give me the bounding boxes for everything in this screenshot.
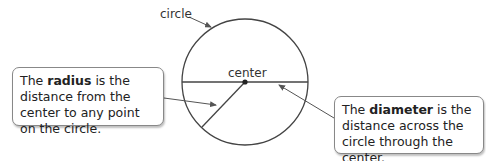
diameter-pointer-arrow — [279, 85, 334, 118]
diameter-callout-pre: The — [342, 102, 369, 117]
diameter-callout: The diameter is the distance across the … — [334, 96, 484, 154]
radius-term: radius — [47, 73, 91, 88]
center-label: center — [228, 66, 267, 80]
radius-pointer-arrow — [164, 98, 216, 105]
radius-callout: The radius is the distance from the cent… — [12, 67, 164, 126]
circle-diagram: circle center The radius is the distance… — [0, 0, 486, 161]
diameter-term: diameter — [369, 102, 433, 117]
radius-line — [202, 82, 245, 127]
circle-pointer-arrow — [189, 17, 211, 27]
radius-callout-pre: The — [20, 73, 47, 88]
circle-label: circle — [160, 7, 192, 21]
center-point — [242, 79, 247, 84]
